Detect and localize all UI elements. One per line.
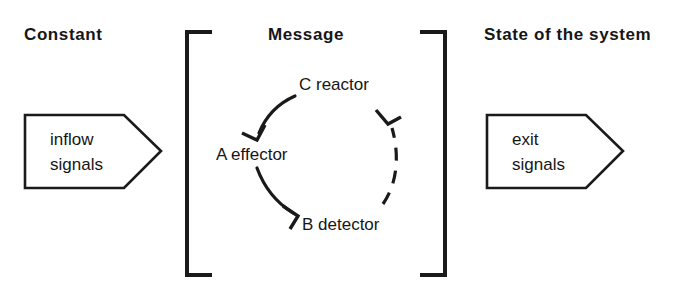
- heading-state-of-the-system: State of the system: [484, 26, 651, 43]
- heading-message: Message: [268, 26, 344, 43]
- exit-signals-label: exit signals: [512, 128, 565, 177]
- right-bracket: [420, 32, 445, 275]
- cycle-node-a-effector: A effector: [216, 146, 288, 163]
- edge-a-to-b: [257, 168, 293, 213]
- inflow-signals-line-1: inflow: [50, 128, 103, 153]
- edge-b-to-c-dashed: [383, 128, 396, 204]
- exit-signals-line-1: exit: [512, 128, 565, 153]
- arrowhead-a-to-b: [283, 206, 298, 229]
- cycle-node-b-detector: B detector: [302, 216, 380, 233]
- arrowhead-b-to-c: [376, 110, 401, 124]
- exit-signals-line-2: signals: [512, 153, 565, 178]
- left-bracket: [187, 32, 212, 275]
- cycle-node-c-reactor: C reactor: [299, 76, 369, 93]
- heading-constant: Constant: [24, 26, 102, 43]
- inflow-signals-label: inflow signals: [50, 128, 103, 177]
- diagram-canvas: Constant Message State of the system inf…: [0, 0, 685, 297]
- inflow-signals-line-2: signals: [50, 153, 103, 178]
